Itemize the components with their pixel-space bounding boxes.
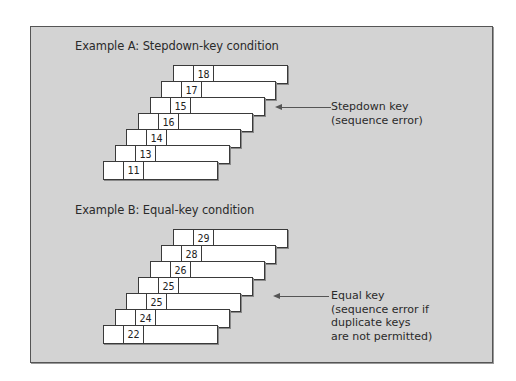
example-b-title: Example B: Equal-key condition: [75, 203, 254, 217]
record-card: 22: [103, 325, 218, 344]
arrowhead-icon: [275, 104, 282, 110]
equal-key-arrow: [279, 296, 329, 297]
annotation-line: (sequence error): [331, 114, 423, 128]
annotation-line: Stepdown key: [331, 100, 423, 114]
arrowhead-icon: [273, 293, 280, 299]
record-key: 22: [123, 325, 144, 344]
example-a-title: Example A: Stepdown-key condition: [75, 39, 279, 53]
record-key: 11: [123, 161, 144, 180]
annotation-line: are not permitted): [331, 330, 432, 344]
stepdown-annotation: Stepdown key (sequence error): [331, 100, 423, 127]
stepdown-arrow: [281, 107, 331, 108]
annotation-line: Equal key: [331, 289, 432, 303]
record-card: 11: [103, 161, 218, 180]
equal-key-annotation: Equal key (sequence error if duplicate k…: [331, 289, 432, 343]
annotation-line: (sequence error if: [331, 303, 432, 317]
annotation-line: duplicate keys: [331, 316, 432, 330]
